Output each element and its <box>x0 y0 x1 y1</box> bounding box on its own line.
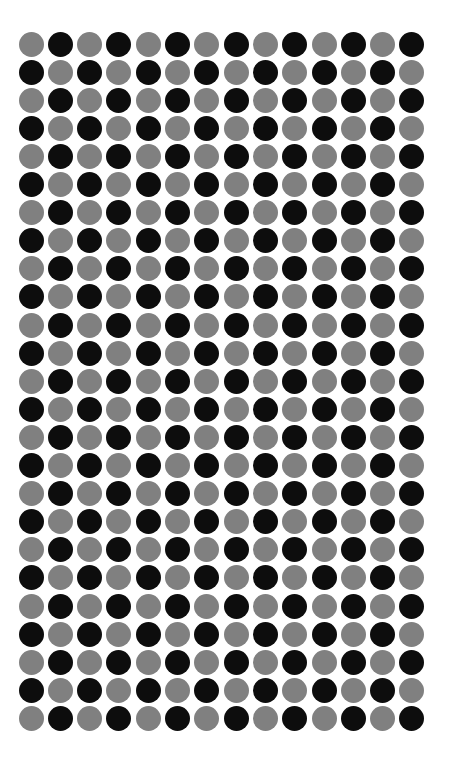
dot <box>194 706 219 731</box>
dot <box>194 256 219 281</box>
dot <box>194 397 219 422</box>
dot <box>253 144 278 169</box>
dot <box>282 509 307 534</box>
dot <box>282 144 307 169</box>
dot <box>194 650 219 675</box>
dot <box>106 369 131 394</box>
dot <box>106 256 131 281</box>
dot <box>19 622 44 647</box>
dot <box>253 60 278 85</box>
dot <box>341 60 366 85</box>
dot <box>282 594 307 619</box>
dot <box>19 481 44 506</box>
dot <box>312 116 337 141</box>
dot <box>48 228 73 253</box>
dot <box>370 116 395 141</box>
dot <box>194 88 219 113</box>
dot <box>19 509 44 534</box>
dot <box>370 313 395 338</box>
dot <box>282 397 307 422</box>
dot <box>165 453 190 478</box>
dot <box>253 706 278 731</box>
dot <box>19 397 44 422</box>
dot <box>341 706 366 731</box>
dot <box>136 565 161 590</box>
dot <box>48 594 73 619</box>
dot <box>77 369 102 394</box>
dot <box>341 32 366 57</box>
dot <box>48 706 73 731</box>
dot <box>253 622 278 647</box>
dot <box>224 425 249 450</box>
dot <box>253 537 278 562</box>
dot <box>48 284 73 309</box>
dot <box>77 397 102 422</box>
dot <box>224 706 249 731</box>
dot <box>282 453 307 478</box>
dot <box>106 144 131 169</box>
dot <box>312 313 337 338</box>
dot <box>136 116 161 141</box>
dot <box>19 341 44 366</box>
dot <box>224 397 249 422</box>
dot <box>194 565 219 590</box>
dot <box>77 425 102 450</box>
dot <box>194 60 219 85</box>
dot <box>341 650 366 675</box>
dot <box>399 650 424 675</box>
dot <box>194 144 219 169</box>
dot <box>312 341 337 366</box>
dot <box>165 537 190 562</box>
dot <box>19 453 44 478</box>
dot <box>106 650 131 675</box>
dot <box>399 172 424 197</box>
dot <box>399 228 424 253</box>
dot <box>399 481 424 506</box>
dot <box>48 565 73 590</box>
dot <box>399 678 424 703</box>
dot <box>370 650 395 675</box>
dot <box>194 228 219 253</box>
dot <box>224 116 249 141</box>
dot <box>194 509 219 534</box>
dot <box>165 32 190 57</box>
dot <box>224 369 249 394</box>
dot <box>19 32 44 57</box>
dot <box>136 32 161 57</box>
dot <box>341 144 366 169</box>
dot <box>106 509 131 534</box>
dot <box>77 284 102 309</box>
dot <box>282 256 307 281</box>
dot <box>165 425 190 450</box>
dot <box>224 678 249 703</box>
dot <box>194 622 219 647</box>
dot <box>106 116 131 141</box>
dot <box>77 509 102 534</box>
dot <box>341 228 366 253</box>
dot <box>370 594 395 619</box>
dot <box>312 144 337 169</box>
dot <box>312 509 337 534</box>
dot <box>370 256 395 281</box>
dot <box>224 60 249 85</box>
dot <box>370 565 395 590</box>
dot <box>370 284 395 309</box>
dot <box>136 60 161 85</box>
dot <box>282 32 307 57</box>
dot <box>106 594 131 619</box>
dot <box>370 200 395 225</box>
dot <box>253 509 278 534</box>
dot <box>399 594 424 619</box>
dot <box>136 425 161 450</box>
dot <box>194 594 219 619</box>
dot <box>136 678 161 703</box>
dot <box>341 313 366 338</box>
dot <box>282 284 307 309</box>
dot <box>312 706 337 731</box>
dot <box>312 537 337 562</box>
dot <box>48 60 73 85</box>
dot <box>136 397 161 422</box>
dot <box>253 200 278 225</box>
dot <box>77 60 102 85</box>
dot <box>224 453 249 478</box>
